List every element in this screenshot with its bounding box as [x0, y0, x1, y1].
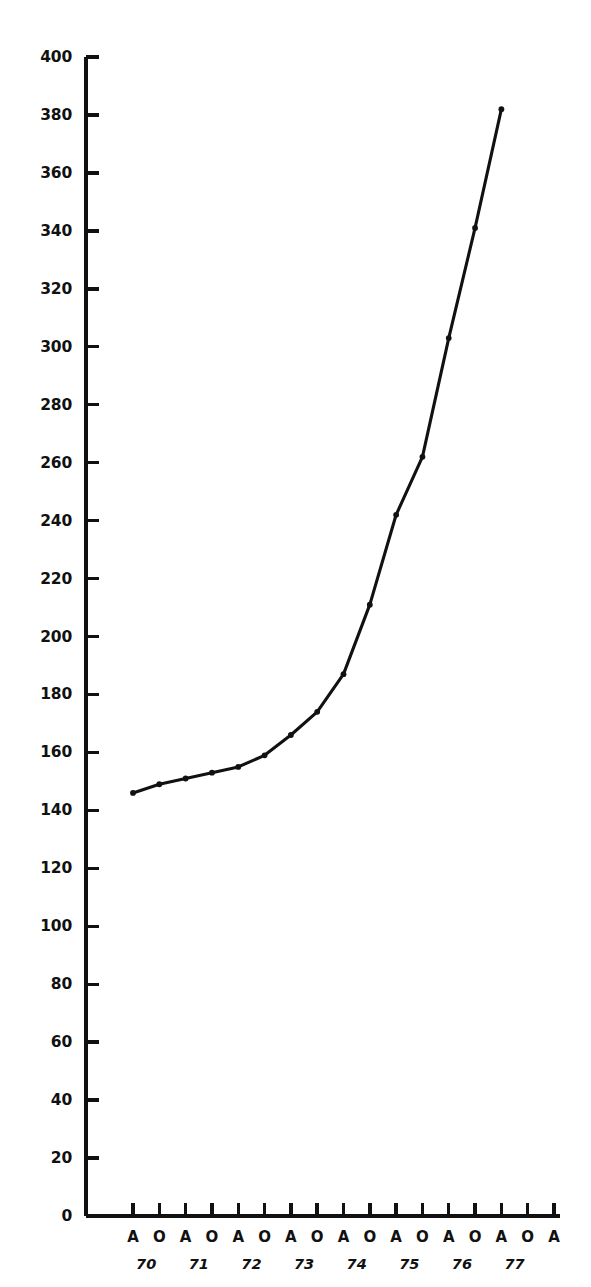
x-axis-period-label: O [412, 1228, 432, 1246]
y-axis-tick-label: 280 [8, 396, 72, 414]
y-axis-tick-label: 60 [8, 1033, 72, 1051]
x-axis-year-label: 74 [342, 1256, 372, 1272]
x-axis-year-label: 72 [236, 1256, 266, 1272]
y-axis-tick-label: 180 [8, 685, 72, 703]
x-axis-period-label: O [518, 1228, 538, 1246]
data-point-marker [367, 602, 373, 608]
x-axis-period-label: A [334, 1228, 354, 1246]
x-axis-period-label: O [255, 1228, 275, 1246]
data-point-marker [209, 770, 215, 776]
y-axis-tick-label: 20 [8, 1149, 72, 1167]
plot-area [0, 0, 591, 1287]
data-point-marker [183, 776, 189, 782]
x-axis-period-label: A [123, 1228, 143, 1246]
data-point-marker [393, 512, 399, 518]
y-axis-tick-label: 360 [8, 164, 72, 182]
data-line [133, 109, 501, 793]
y-axis-tick-label: 80 [8, 975, 72, 993]
y-axis-tick-label: 260 [8, 454, 72, 472]
data-point-marker [235, 764, 241, 770]
data-point-marker [288, 732, 294, 738]
x-axis-year-label: 71 [184, 1256, 214, 1272]
x-axis-period-label: A [491, 1228, 511, 1246]
y-axis-tick-label: 160 [8, 743, 72, 761]
x-axis-period-label: O [149, 1228, 169, 1246]
y-axis-tick-label: 220 [8, 570, 72, 588]
x-axis-period-label: O [465, 1228, 485, 1246]
x-axis-year-label: 75 [394, 1256, 424, 1272]
data-point-marker [262, 752, 268, 758]
y-axis-tick-label: 200 [8, 628, 72, 646]
x-axis-period-label: O [202, 1228, 222, 1246]
data-point-marker [472, 225, 478, 231]
y-axis-tick-label: 240 [8, 512, 72, 530]
data-point-marker [130, 790, 136, 796]
y-axis-tick-label: 120 [8, 859, 72, 877]
y-axis-tick-label: 400 [8, 48, 72, 66]
x-axis-year-label: 73 [289, 1256, 319, 1272]
data-point-marker [446, 335, 452, 341]
y-axis-tick-label: 320 [8, 280, 72, 298]
data-point-marker [314, 709, 320, 715]
x-axis-year-label: 70 [131, 1256, 161, 1272]
y-axis-tick-label: 380 [8, 106, 72, 124]
y-axis-tick-label: 340 [8, 222, 72, 240]
x-axis-period-label: A [176, 1228, 196, 1246]
y-axis-tick-label: 100 [8, 917, 72, 935]
x-axis-period-label: A [544, 1228, 564, 1246]
x-axis-period-label: A [386, 1228, 406, 1246]
data-point-marker [156, 781, 162, 787]
x-axis-year-label: 76 [447, 1256, 477, 1272]
y-axis-tick-label: 40 [8, 1091, 72, 1109]
x-axis-year-label: 77 [500, 1256, 530, 1272]
y-axis-tick-label: 140 [8, 801, 72, 819]
x-axis-period-label: O [360, 1228, 380, 1246]
axes [86, 57, 560, 1216]
data-point-marker [420, 454, 426, 460]
y-axis-tick-label: 300 [8, 338, 72, 356]
data-series [130, 106, 504, 796]
data-point-marker [341, 671, 347, 677]
x-axis-period-label: A [281, 1228, 301, 1246]
x-axis-period-label: A [228, 1228, 248, 1246]
data-point-marker [498, 106, 504, 112]
x-axis-period-label: A [439, 1228, 459, 1246]
chart-figure: 4003803603403203002802602402202001801601… [0, 0, 591, 1287]
x-axis-period-label: O [307, 1228, 327, 1246]
y-axis-tick-label: 0 [8, 1207, 72, 1225]
